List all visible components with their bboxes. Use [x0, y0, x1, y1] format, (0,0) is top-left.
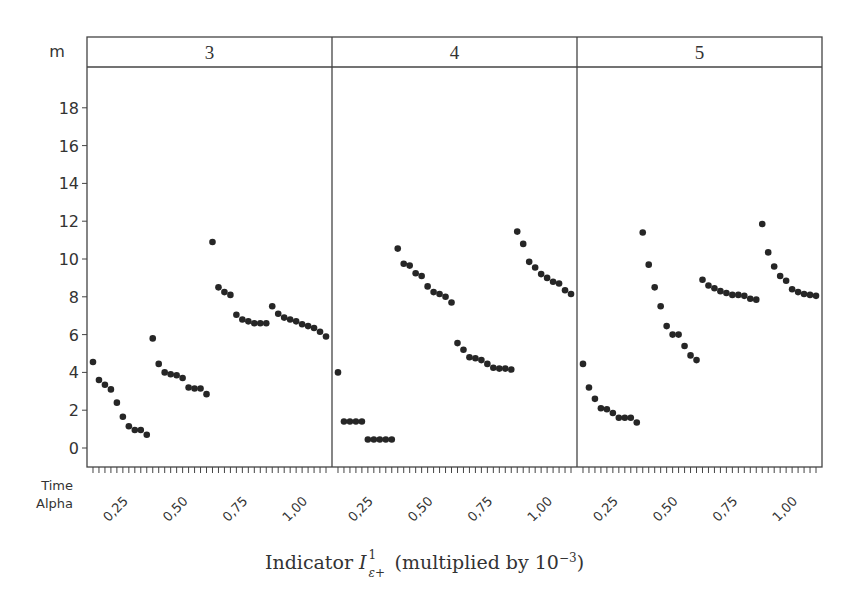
data-point	[149, 335, 156, 342]
y-tick-label: 14	[59, 174, 79, 193]
data-point	[735, 292, 742, 299]
x-tick-label-alpha: 1,00	[524, 494, 555, 525]
data-point	[681, 343, 688, 350]
data-point	[197, 385, 204, 392]
data-point	[526, 259, 533, 266]
data-point	[102, 381, 109, 388]
data-point	[287, 316, 294, 323]
data-point	[538, 271, 545, 278]
data-point	[335, 369, 342, 376]
data-point	[323, 333, 330, 340]
data-point	[633, 419, 640, 426]
data-point	[622, 414, 629, 421]
data-point	[108, 386, 115, 393]
x-title-symbol: I	[359, 551, 367, 573]
y-tick-label: 0	[69, 439, 79, 458]
data-point	[353, 418, 360, 425]
data-point	[400, 260, 407, 267]
x-title-exponent: −3	[559, 551, 577, 565]
data-point	[472, 355, 479, 362]
data-point	[592, 396, 599, 403]
data-point	[466, 354, 473, 361]
y-tick-label: 2	[69, 401, 79, 420]
data-point	[424, 283, 431, 290]
data-point	[711, 285, 718, 292]
data-point	[96, 377, 103, 384]
data-point	[179, 375, 186, 382]
data-point	[185, 384, 192, 391]
data-point	[359, 418, 366, 425]
x-title-prefix: Indicator	[265, 551, 359, 573]
data-point	[263, 320, 270, 327]
data-point	[293, 318, 300, 325]
data-point	[305, 323, 312, 330]
data-point	[442, 294, 449, 301]
data-point	[639, 229, 646, 236]
data-point	[251, 320, 258, 327]
data-point	[120, 414, 127, 421]
data-point	[233, 311, 240, 318]
x-tick-label-alpha: 0,50	[405, 494, 436, 525]
data-point	[795, 289, 802, 296]
data-point	[502, 365, 509, 372]
data-point	[143, 431, 150, 438]
data-point	[562, 287, 569, 294]
x-tick-label-alpha: 0,50	[160, 494, 191, 525]
x-tick-label-alpha: 0,25	[100, 494, 131, 525]
y-tick-label: 18	[59, 99, 79, 118]
plot-frame: 345	[87, 37, 822, 467]
data-point	[669, 331, 676, 338]
data-point	[191, 385, 198, 392]
data-point	[377, 436, 384, 443]
data-point	[699, 276, 706, 283]
x-row-label-time: Time	[40, 478, 73, 493]
x-tick-label-alpha: 0,50	[650, 494, 681, 525]
data-point	[269, 303, 276, 310]
data-point	[227, 292, 234, 299]
x-axis-title: Indicator I1ε+ (multiplied by 10−3)	[0, 551, 849, 573]
data-point	[281, 314, 288, 321]
data-point	[436, 291, 443, 298]
x-tick-label-alpha: 0,75	[709, 494, 740, 525]
data-point	[371, 436, 378, 443]
data-point	[717, 288, 724, 295]
data-point	[663, 323, 670, 330]
data-point	[484, 361, 491, 368]
data-point	[347, 418, 354, 425]
x-axis: 0,250,500,751,000,250,500,751,000,250,50…	[93, 467, 816, 525]
x-title-superscript: 1	[369, 548, 377, 562]
data-point	[311, 325, 318, 332]
data-point	[490, 364, 497, 371]
data-point	[114, 399, 121, 406]
y-tick-label: 10	[59, 250, 79, 269]
data-point	[723, 290, 730, 297]
data-point	[657, 303, 664, 310]
x-tick-label-alpha: 0,75	[464, 494, 495, 525]
data-point	[365, 436, 372, 443]
data-point	[627, 414, 634, 421]
data-point	[245, 318, 252, 325]
x-tick-label-alpha: 1,00	[279, 494, 310, 525]
data-point	[209, 239, 216, 246]
data-point	[687, 352, 694, 359]
data-point	[645, 261, 652, 268]
x-tick-label-alpha: 1,00	[769, 494, 800, 525]
data-point	[299, 321, 306, 328]
data-point	[729, 292, 736, 299]
data-point	[598, 405, 605, 412]
data-point	[341, 418, 348, 425]
data-point	[801, 291, 808, 298]
x-title-middle: (multiplied by 10	[389, 551, 559, 573]
x-tick-label-alpha: 0,25	[590, 494, 621, 525]
y-tick-label: 12	[59, 212, 79, 231]
data-point	[454, 340, 461, 347]
data-point	[675, 331, 682, 338]
data-point	[753, 296, 760, 303]
data-point	[586, 384, 593, 391]
data-point	[132, 427, 139, 434]
data-point	[765, 249, 772, 256]
data-points	[90, 221, 820, 443]
data-point	[167, 371, 174, 378]
data-point	[430, 289, 437, 296]
x-tick-label-alpha: 0,25	[345, 494, 376, 525]
